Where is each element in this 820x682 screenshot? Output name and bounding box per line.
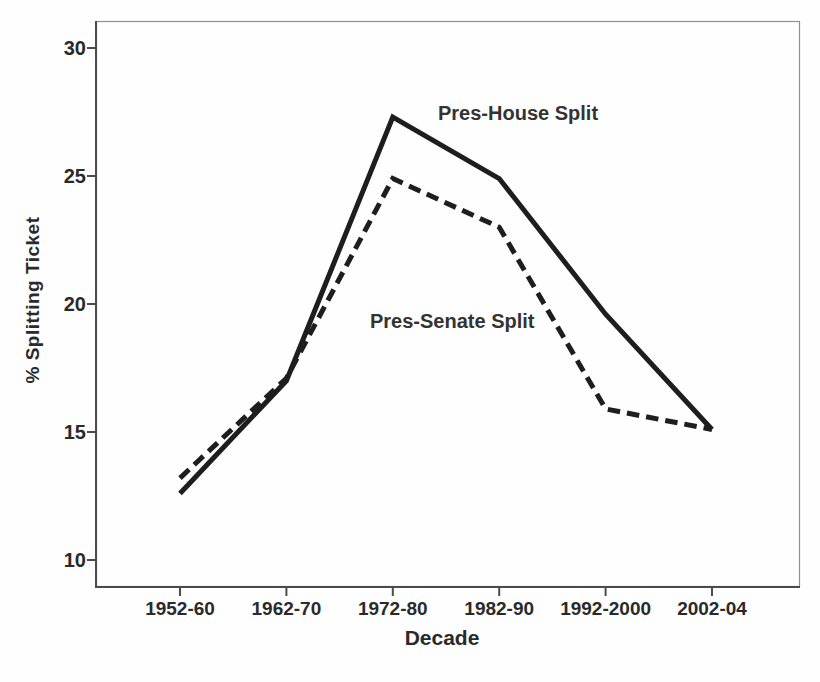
pres-house-split-annotation: Pres-House Split [438,102,598,125]
x-tick-label: 2002-04 [652,598,772,620]
pres-house-split-line [180,117,712,493]
y-tick-label: 15 [36,421,86,443]
y-tick-label: 10 [36,549,86,571]
x-tick-label: 1972-80 [333,598,453,620]
chart-canvas [0,0,820,682]
y-tick-label: 25 [36,165,86,187]
pres-senate-split-annotation: Pres-Senate Split [370,310,535,333]
y-tick-label: 30 [36,37,86,59]
y-axis-title: % Splitting Ticket [22,216,44,383]
x-axis-title: Decade [405,626,480,650]
x-tick-label: 1992-2000 [546,598,666,620]
x-tick-label: 1952-60 [120,598,240,620]
x-tick-label: 1962-70 [226,598,346,620]
x-tick-label: 1982-90 [439,598,559,620]
ticket-splitting-chart: 1015202530 1952-601962-701972-801982-901… [0,0,820,682]
